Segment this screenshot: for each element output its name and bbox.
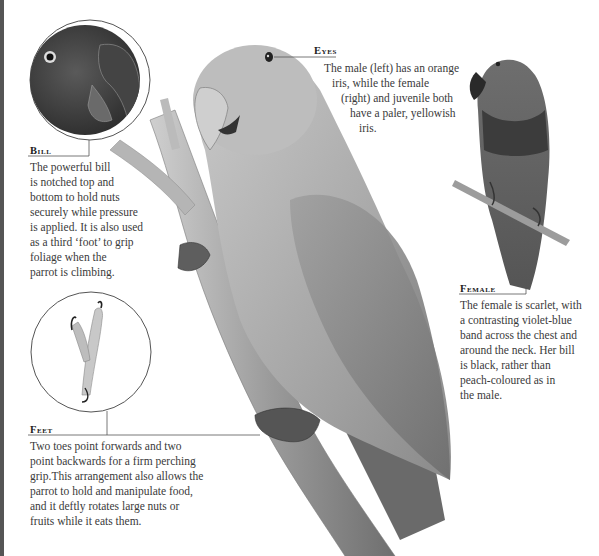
female-text-line: The female is scarlet, with <box>460 298 599 313</box>
bill-text-line: is notched top and <box>30 175 190 190</box>
female-text-line: around the neck. Her bill <box>460 343 599 358</box>
female-text-line: peach-coloured as in <box>460 373 599 388</box>
female-parrot-illustration <box>452 60 570 290</box>
female-text: The female is scarlet, with a contrastin… <box>460 298 599 403</box>
female-text-line: is black, rather than <box>460 358 599 373</box>
bill-text-line: The powerful bill <box>30 160 190 175</box>
bill-text-line: bottom to hold nuts <box>30 190 190 205</box>
feet-text-line: point backwards for a firm perching <box>30 454 230 469</box>
bill-text-line: securely while pressure <box>30 205 190 220</box>
feet-heading: Feet <box>30 424 53 435</box>
bill-text-line: parrot is climbing. <box>30 265 190 280</box>
bill-text-line: is applied. It is also used <box>30 220 190 235</box>
bill-closeup-inset <box>20 20 160 150</box>
feet-text-line: grip.This arrangement also allows the <box>30 469 230 484</box>
female-text-line: a contrasting violet-blue <box>460 313 599 328</box>
feet-text-line: parrot to hold and manipulate food, <box>30 484 230 499</box>
feet-text-line: fruits while it eats them. <box>30 514 230 529</box>
feet-text-line: Two toes point forwards and two <box>30 439 230 454</box>
bill-text-line: as a third ‘foot’ to grip <box>30 235 190 250</box>
eyes-text-line: iris. <box>359 121 377 136</box>
eyes-text-line: (right) and juvenile both <box>341 91 453 106</box>
female-heading: Female <box>460 283 496 294</box>
eyes-heading: Eyes <box>314 45 337 56</box>
bill-text: The powerful bill is notched top and bot… <box>30 160 190 280</box>
eyes-text-line: iris, while the female <box>332 76 429 91</box>
bill-text-line: foliage when the <box>30 250 190 265</box>
feet-text-line: and it deftly rotates large nuts or <box>30 499 230 514</box>
eyes-text-line: The male (left) has an orange <box>324 61 459 76</box>
bill-heading: Bill <box>30 145 51 156</box>
female-text-line: band across the chest and <box>460 328 599 343</box>
feet-text: Two toes point forwards and two point ba… <box>30 439 230 529</box>
eyes-text-line: have a paler, yellowish <box>350 106 456 121</box>
female-text-line: the male. <box>460 388 599 403</box>
